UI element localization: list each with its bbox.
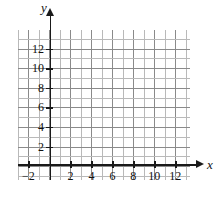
gridline-vertical — [165, 30, 166, 180]
x-axis-arrow-icon — [196, 160, 204, 168]
gridline-vertical — [186, 30, 187, 180]
x-tick-mark — [133, 161, 134, 168]
gridline-vertical — [28, 30, 29, 180]
x-tick-mark — [175, 161, 176, 168]
y-tick-mark — [46, 127, 53, 128]
x-tick-label: 12 — [169, 170, 181, 182]
x-tick-mark — [154, 161, 155, 168]
x-tick-mark — [28, 161, 29, 168]
x-tick-label: 4 — [88, 170, 94, 182]
y-tick-label: 8 — [38, 82, 44, 94]
gridline-vertical — [154, 30, 155, 180]
x-tick-label: 10 — [148, 170, 160, 182]
x-tick-label: 2 — [67, 170, 73, 182]
x-tick-label: −2 — [22, 170, 35, 182]
gridline-vertical — [91, 30, 92, 180]
x-tick-mark — [91, 161, 92, 168]
gridline-vertical — [112, 30, 113, 180]
gridline-horizontal — [18, 176, 190, 177]
y-tick-mark — [46, 147, 53, 148]
y-tick-mark — [46, 68, 53, 69]
gridline-vertical — [175, 30, 176, 180]
gridline-vertical — [70, 30, 71, 180]
x-tick-label: 8 — [130, 170, 136, 182]
gridline-vertical — [102, 30, 103, 180]
gridline-horizontal — [18, 156, 190, 157]
y-axis-label: y — [41, 0, 47, 16]
coordinate-plane-figure: x y −22468101224681012 — [0, 0, 224, 202]
y-tick-label: 4 — [38, 121, 44, 133]
gridline-horizontal — [18, 166, 190, 167]
y-tick-label: 6 — [38, 101, 44, 113]
gridline-vertical — [133, 30, 134, 180]
x-tick-mark — [70, 161, 71, 168]
x-tick-label: 6 — [109, 170, 115, 182]
y-tick-mark — [46, 107, 53, 108]
y-tick-label: 10 — [32, 62, 44, 74]
gridline-vertical — [18, 30, 19, 180]
gridline-horizontal — [18, 78, 190, 79]
gridline-horizontal — [18, 39, 190, 40]
y-tick-label: 2 — [38, 141, 44, 153]
x-axis-label: x — [207, 157, 213, 173]
gridline-vertical — [123, 30, 124, 180]
gridline-horizontal — [18, 117, 190, 118]
gridline-horizontal — [18, 98, 190, 99]
gridline-horizontal — [18, 58, 190, 59]
x-axis-line — [18, 164, 198, 166]
y-tick-mark — [46, 49, 53, 50]
y-tick-mark — [46, 88, 53, 89]
gridline-vertical — [81, 30, 82, 180]
gridline-horizontal — [18, 137, 190, 138]
x-tick-mark — [112, 161, 113, 168]
y-tick-label: 12 — [32, 43, 44, 55]
gridline-vertical — [144, 30, 145, 180]
y-axis-line — [50, 12, 52, 180]
gridline-vertical — [60, 30, 61, 180]
